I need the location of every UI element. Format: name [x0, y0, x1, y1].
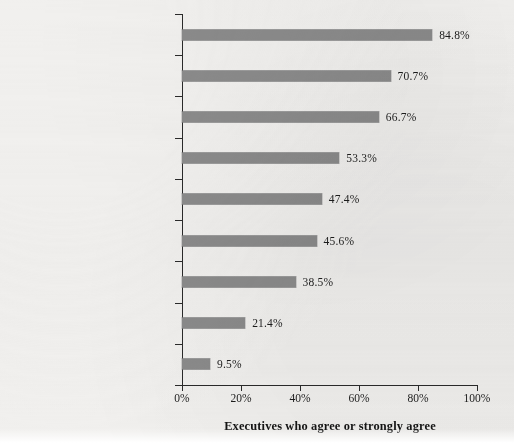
y-axis-tick: [175, 220, 182, 221]
x-axis-tick: [182, 385, 183, 391]
bar[interactable]: [182, 235, 317, 246]
x-axis-tick: [477, 385, 478, 391]
bar-value-label: 84.8%: [439, 29, 470, 41]
x-axis-tick: [359, 385, 360, 391]
bar[interactable]: [182, 70, 391, 81]
plot-area: Maintaining consistency with our histori…: [182, 14, 477, 385]
bar-value-label: 9.5%: [217, 358, 242, 370]
x-axis-title: Executives who agree or strongly agree: [182, 419, 478, 434]
bar-value-label: 70.7%: [398, 70, 429, 82]
x-axis-line: [182, 385, 478, 386]
bar-value-label: 53.3%: [346, 152, 377, 164]
bar[interactable]: [182, 318, 245, 329]
bar[interactable]: [182, 153, 339, 164]
bar[interactable]: [182, 276, 296, 287]
y-axis-tick: [175, 96, 182, 97]
y-axis-tick: [175, 385, 182, 386]
bar[interactable]: [182, 194, 322, 205]
y-axis-tick: [175, 138, 182, 139]
x-axis-tick: [241, 385, 242, 391]
bar-value-label: 38.5%: [303, 276, 334, 288]
bar-row: Flotation costs to issuing additional eq…: [182, 344, 477, 385]
y-axis-tick: [175, 179, 182, 180]
bar-value-label: 21.4%: [252, 317, 283, 329]
bar-row: Attracting institutional investors to pu…: [182, 138, 477, 179]
horizontal-bar-chart: Maintaining consistency with our histori…: [0, 0, 514, 445]
bar-row: Attracting retail investors to purchase …: [182, 220, 477, 261]
bar-value-label: 47.4%: [329, 193, 360, 205]
bar-row: The availability of good investment oppo…: [182, 179, 477, 220]
bar-row: Stability of future earnings70.7%: [182, 55, 477, 96]
x-axis-tick-label: 20%: [211, 392, 271, 404]
x-axis-tick-label: 80%: [388, 392, 448, 404]
bar-value-label: 66.7%: [386, 111, 417, 123]
bar-row: Personal taxes our stockholders pay when…: [182, 303, 477, 344]
x-axis-tick-label: 60%: [329, 392, 389, 404]
bar[interactable]: [182, 359, 210, 370]
bar-row: Maintaining consistency with our histori…: [182, 14, 477, 55]
y-axis-tick: [175, 303, 182, 304]
y-axis-tick: [175, 344, 182, 345]
bar-value-label: 45.6%: [324, 235, 355, 247]
bar-row: The dividend policies of competitors or …: [182, 261, 477, 302]
x-axis-tick-label: 40%: [270, 392, 330, 404]
x-axis-tick: [418, 385, 419, 391]
y-axis-tick: [175, 14, 182, 15]
x-axis-tick-label: 100%: [447, 392, 507, 404]
bar-row: A sustainable change in earnings66.7%: [182, 96, 477, 137]
x-axis-tick: [300, 385, 301, 391]
bar[interactable]: [182, 112, 379, 123]
y-axis-tick: [175, 55, 182, 56]
bar[interactable]: [182, 29, 432, 40]
y-axis-tick: [175, 261, 182, 262]
x-axis-tick-label: 0%: [152, 392, 212, 404]
